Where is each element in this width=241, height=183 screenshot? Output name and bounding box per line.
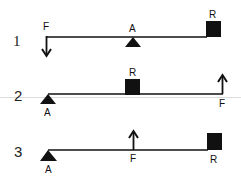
fulcrum-triangle-icon xyxy=(40,94,56,104)
force-label: F xyxy=(219,98,225,109)
force-arrow-down-icon xyxy=(42,36,51,56)
force-arrow-up-icon xyxy=(129,131,138,150)
lever-number: 3 xyxy=(14,143,22,160)
fulcrum-triangle-icon xyxy=(40,150,57,161)
resistance-block xyxy=(125,79,140,95)
lever-number: 2 xyxy=(14,87,22,104)
fulcrum-label: A xyxy=(129,23,136,34)
lever-3: 3 A F R xyxy=(14,131,222,175)
resistance-block xyxy=(206,21,221,37)
fulcrum-label: A xyxy=(45,164,52,175)
lever-1: 1 F A R xyxy=(13,9,221,56)
lever-number: 1 xyxy=(13,33,21,49)
lever-2: 2 A R F xyxy=(14,67,227,118)
force-label: F xyxy=(43,21,49,32)
resistance-label: R xyxy=(209,9,216,20)
resistance-label: R xyxy=(129,67,136,78)
resistance-label: R xyxy=(210,154,217,165)
lever-diagram: 1 F A R 2 A R F 3 A F xyxy=(0,0,241,183)
fulcrum-triangle-icon xyxy=(125,37,141,47)
resistance-block xyxy=(207,133,222,150)
force-arrow-up-icon xyxy=(218,75,227,94)
force-label: F xyxy=(130,153,136,164)
fulcrum-label: A xyxy=(44,107,51,118)
